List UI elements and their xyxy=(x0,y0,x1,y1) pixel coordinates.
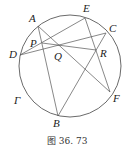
label-r: R xyxy=(99,47,107,59)
segment-bc xyxy=(58,33,106,116)
label-b: B xyxy=(53,117,60,129)
label-f: F xyxy=(112,92,120,104)
label-p: P xyxy=(29,37,37,49)
geometry-figure: A E C D P Q R F B Γ 图 36. 73 xyxy=(0,0,131,149)
label-c: C xyxy=(109,22,117,34)
label-e: E xyxy=(82,2,90,14)
figure-caption: 图 36. 73 xyxy=(47,136,88,146)
label-d: D xyxy=(8,48,17,60)
label-q: Q xyxy=(54,50,62,62)
label-gamma: Γ xyxy=(13,94,21,106)
segment-pr xyxy=(42,43,96,50)
point-labels: A E C D P Q R F B Γ xyxy=(8,2,120,129)
circle-gamma xyxy=(19,15,121,117)
segment-ab xyxy=(38,26,58,116)
label-a: A xyxy=(28,12,36,24)
